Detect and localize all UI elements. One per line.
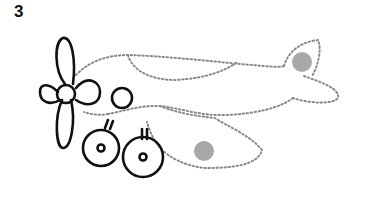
- rear-wheel-hub: [140, 154, 147, 161]
- rear-wheel: [123, 137, 163, 177]
- propeller-blade-bottom: [57, 100, 73, 148]
- tail-dot: [292, 52, 312, 72]
- propeller-hub: [57, 85, 75, 103]
- front-wheel-hub: [98, 145, 105, 152]
- airplane-drawing: [0, 0, 365, 197]
- front-wheel: [83, 130, 119, 166]
- tail-trace: [293, 76, 338, 103]
- fuselage-bottom-trace: [108, 98, 293, 115]
- fuselage-top-trace: [76, 55, 284, 75]
- wing-dot: [194, 141, 214, 161]
- propeller-blade-top: [56, 38, 74, 84]
- window-circle: [112, 88, 132, 108]
- propeller-blade-right: [76, 80, 100, 104]
- belly-trace: [84, 112, 108, 115]
- front-strut: [105, 120, 113, 129]
